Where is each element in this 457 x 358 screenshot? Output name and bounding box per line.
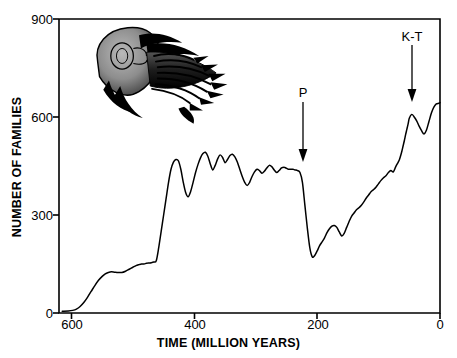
y-tick-label-600: 600: [31, 111, 53, 124]
y-tick-marks: [53, 19, 59, 313]
y-axis-tick-labels: 900 600 300 0: [0, 0, 53, 358]
x-tick-label-200: 200: [307, 318, 329, 331]
y-tick-label-300: 300: [31, 209, 53, 222]
permian-extinction-arrow: [299, 102, 308, 162]
y-axis-title: NUMBER OF FAMILIES: [10, 77, 24, 257]
x-tick-label-600: 600: [61, 318, 83, 331]
x-tick-label-400: 400: [184, 318, 206, 331]
annotation-label-kt: K-T: [402, 30, 423, 43]
diversity-curve-line: [62, 103, 440, 312]
trilobite-fossil-illustration: [97, 28, 227, 124]
kt-extinction-arrow: [408, 45, 417, 102]
y-tick-label-900: 900: [31, 13, 53, 26]
x-axis-tick-labels: 600 400 200 0: [0, 318, 457, 336]
x-axis-title: TIME (MILLION YEARS): [0, 336, 457, 350]
plot-area: [0, 0, 457, 358]
annotation-label-p: P: [299, 86, 308, 99]
diversity-curve-figure: 900 600 300 0 600 400 200 0 NUMBER OF FA…: [0, 0, 457, 358]
x-tick-label-0: 0: [436, 318, 443, 331]
